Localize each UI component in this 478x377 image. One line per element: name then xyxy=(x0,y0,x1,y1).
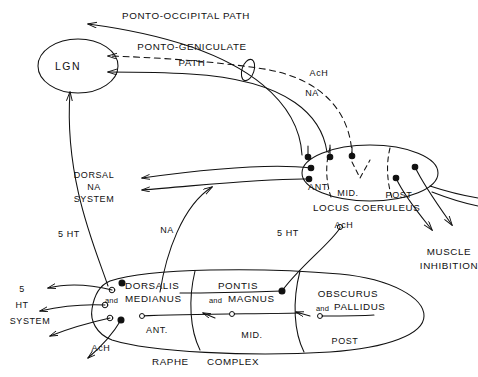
raphe-mid-zone-label: MID. xyxy=(241,330,262,340)
lgn-label: LGN xyxy=(55,60,81,72)
ponto-geniculate-path-label-line1: PONTO-GENICULATE xyxy=(137,41,246,52)
ach-upper-label: AcH xyxy=(310,68,329,78)
lc-ant-label: ANT. xyxy=(308,182,330,192)
raphe-dorsalis-conj: and xyxy=(105,296,118,305)
raphe-internal-circle xyxy=(230,312,235,317)
ach-lc-label: AcH xyxy=(335,220,354,230)
ht-system-fiber-2 xyxy=(40,305,105,311)
raphe-complex-label-line2: COMPLEX xyxy=(207,356,259,367)
raphe-pontis-label: PONTIS xyxy=(218,280,258,291)
na-upper-label: NA xyxy=(305,88,319,98)
lc-efferent-right-1 xyxy=(430,186,478,198)
raphe-obscurus-label: OBSCURUS xyxy=(318,288,378,299)
na-descending-fiber xyxy=(160,187,212,292)
raphe-pontis-conj: and xyxy=(209,296,222,305)
lc-internal-v xyxy=(352,160,370,178)
locus-coeruleus-label-line1: LOCUS xyxy=(313,202,350,213)
raphe-internal-fiber-right xyxy=(322,315,374,316)
na-ascending-path xyxy=(108,72,327,152)
dorsal-na-fiber-lower xyxy=(142,179,309,190)
brainstem-circuit-diagram xyxy=(0,0,478,377)
raphe-pallidus-label: PALLIDUS xyxy=(334,301,385,312)
raphe-internal-circle xyxy=(140,314,145,319)
raphe-magnus-label: MAGNUS xyxy=(228,293,275,304)
raphe-divider-ant-mid xyxy=(191,271,200,350)
raphe-internal-fiber xyxy=(140,313,300,316)
dorsal-na-system-line3: SYSTEM xyxy=(74,194,115,204)
ht-system-line1: 5 xyxy=(19,284,25,294)
raphe-ant-zone-label: ANT. xyxy=(146,325,168,335)
raphe-post-zone-label: POST xyxy=(332,336,359,346)
ht-system-line2: HT xyxy=(15,300,28,310)
ht-left-upper-label: 5 HT xyxy=(58,229,80,239)
muscle-inhibition-line2: INHIBITION xyxy=(420,260,478,271)
ponto-occipital-path-label: PONTO-OCCIPITAL PATH xyxy=(122,10,250,21)
raphe-divider-mid-post xyxy=(295,271,304,352)
raphe-internal-arrow-2 xyxy=(296,312,310,316)
dorsal-na-system-line2: NA xyxy=(87,182,101,192)
raphe-complex-label-line1: RAPHE xyxy=(152,356,189,367)
raphe-medianus-label: MEDIANUS xyxy=(125,293,182,304)
locus-coeruleus-label-line2: COERULEUS xyxy=(354,202,420,213)
muscle-inhibition-line1: MUSCLE xyxy=(427,246,471,257)
raphe-dorsalis-label: DORSALIS xyxy=(125,280,179,291)
ht-mid-label: 5 HT xyxy=(277,228,299,238)
ponto-geniculate-path-label-line2: PATH xyxy=(178,57,205,68)
lc-mid-label: MID. xyxy=(337,188,358,198)
lc-post-label: POST xyxy=(386,190,413,200)
ach-raphe-label: AcH xyxy=(92,343,111,353)
lc-efferent-right-2 xyxy=(432,192,478,206)
raphe-obscurus-conj: and xyxy=(316,304,329,313)
dorsal-na-fiber-upper xyxy=(142,166,311,178)
ht-system-line3: SYSTEM xyxy=(10,316,51,326)
na-mid-label: NA xyxy=(160,225,174,235)
dorsal-na-system-line1: DORSAL xyxy=(74,170,115,180)
